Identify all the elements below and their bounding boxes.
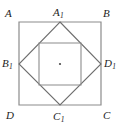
vertex-label-c-text: C (103, 109, 110, 121)
vertex-label-b1: B1 (2, 58, 12, 69)
vertex-label-a: A (5, 8, 12, 19)
vertex-label-d1-subscript: 1 (112, 62, 116, 71)
vertex-label-a-text: A (5, 7, 12, 19)
vertex-label-a1: A1 (53, 7, 63, 18)
geometry-figure: A B C D A1 B1 C1 D1 (0, 0, 120, 129)
vertex-label-a1-text: A (53, 6, 60, 18)
vertex-label-c1-subscript: 1 (61, 115, 65, 124)
vertex-label-c: C (103, 110, 110, 121)
vertex-label-c1: C1 (53, 111, 64, 122)
vertex-label-b: B (103, 8, 110, 19)
vertex-label-d1: D1 (104, 58, 116, 69)
vertex-label-c1-text: C (53, 110, 60, 122)
vertex-label-d-text: D (6, 109, 14, 121)
vertex-label-b-text: B (103, 7, 110, 19)
center-point-dot (59, 63, 61, 65)
vertex-label-b1-subscript: 1 (9, 62, 13, 71)
vertex-label-d1-text: D (104, 57, 112, 69)
vertex-label-d: D (6, 110, 14, 121)
vertex-label-a1-subscript: 1 (60, 11, 64, 20)
vertex-label-b1-text: B (2, 57, 9, 69)
